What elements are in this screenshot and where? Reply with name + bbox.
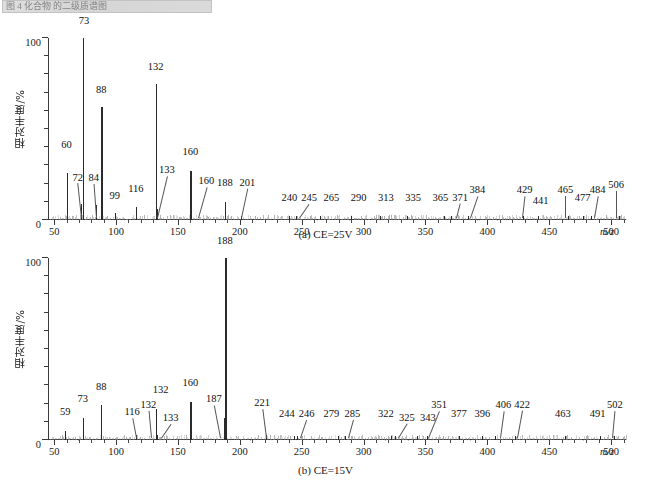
- x-tick: [240, 440, 241, 445]
- peak-label: 491: [590, 409, 606, 420]
- spectrum-peak: [482, 436, 483, 440]
- x-tick-label: 400: [480, 447, 496, 458]
- x-tick-label: 350: [418, 447, 434, 458]
- x-tick: [364, 440, 365, 445]
- peak-label: 465: [557, 185, 573, 196]
- x-tick: [91, 220, 92, 223]
- y-tick: [44, 128, 48, 129]
- peak-label: 371: [452, 193, 468, 204]
- peak-label: 160: [182, 378, 198, 389]
- x-tick: [401, 440, 402, 443]
- spectrum-peak: [417, 436, 418, 440]
- peak-label: 335: [405, 193, 421, 204]
- x-tick: [487, 220, 488, 225]
- peak-leader-line: [517, 411, 523, 438]
- caption-a: (a) CE=25V: [0, 228, 651, 240]
- peak-label: 84: [89, 173, 100, 184]
- spectrum-peak: [294, 436, 295, 440]
- y-tick: [44, 92, 48, 93]
- spectrum-peak: [568, 216, 569, 220]
- spectrum-peak: [345, 436, 346, 440]
- spectrum-peak: [600, 436, 601, 440]
- x-tick: [438, 220, 439, 223]
- y-tick: [44, 73, 48, 74]
- peak-label: 88: [96, 85, 107, 96]
- peak-label: 240: [281, 193, 297, 204]
- peak-leader-line: [616, 191, 617, 218]
- x-tick: [116, 440, 117, 445]
- x-tick: [401, 220, 402, 223]
- x-tick: [450, 220, 451, 223]
- peak-label: 322: [378, 409, 394, 420]
- peak-label: 477: [575, 193, 591, 204]
- x-tick: [376, 440, 377, 443]
- baseline-noise: [626, 435, 627, 440]
- spectrum-plot-a: 相对丰度/% 010050100150200250300350400450500…: [48, 38, 626, 220]
- peak-label: 396: [475, 409, 491, 420]
- spectrum-peak: [515, 436, 516, 440]
- y-tick: [44, 164, 48, 165]
- x-tick: [463, 220, 464, 223]
- spectrum-peak: [380, 216, 381, 220]
- peak-label: 221: [254, 398, 270, 409]
- y-tick: [44, 146, 48, 147]
- peak-label: 406: [496, 400, 512, 411]
- spectrum-peak: [225, 202, 226, 220]
- x-tick: [128, 440, 129, 443]
- spectrum-peak: [459, 436, 460, 440]
- peak-label: 265: [324, 193, 340, 204]
- y-axis-title-b: 相对丰度/%: [12, 310, 27, 368]
- spectrum-peak: [289, 216, 290, 220]
- spectrum-peak: [565, 436, 566, 440]
- x-tick: [487, 440, 488, 445]
- spectrum-peak: [583, 216, 584, 220]
- y-tick: [42, 219, 48, 220]
- spectrum-peak: [614, 436, 615, 440]
- y-tick: [44, 384, 48, 385]
- peak-label: 502: [607, 400, 623, 411]
- x-tick: [128, 220, 129, 223]
- x-tick: [351, 220, 352, 223]
- spectrum-peak: [190, 211, 191, 220]
- peak-label: 59: [60, 407, 71, 418]
- x-tick: [388, 440, 389, 443]
- peak-leader-line: [241, 189, 248, 218]
- x-tick: [339, 220, 340, 223]
- peak-label: 441: [533, 196, 549, 207]
- peak-label: 245: [301, 193, 317, 204]
- peak-label: 99: [110, 191, 121, 202]
- x-tick: [166, 220, 167, 223]
- x-tick: [586, 220, 587, 223]
- x-tick: [252, 440, 253, 443]
- x-tick: [166, 440, 167, 443]
- x-tick: [413, 440, 414, 443]
- spectrum-peak: [67, 173, 69, 220]
- x-tick: [178, 440, 179, 445]
- peak-label: 133: [159, 165, 175, 176]
- spectrum-peak: [296, 216, 297, 220]
- peak-label: 187: [206, 394, 222, 405]
- x-tick: [611, 220, 612, 225]
- x-tick: [326, 220, 327, 223]
- x-tick: [525, 220, 526, 223]
- y-tick: [44, 183, 48, 184]
- peak-leader-line: [148, 411, 151, 438]
- spectrum-peak: [523, 216, 524, 220]
- x-tick: [141, 220, 142, 223]
- peak-label: 72: [72, 173, 83, 184]
- spectrum-peak: [351, 216, 352, 220]
- x-tick: [599, 220, 600, 223]
- x-tick: [475, 220, 476, 223]
- y-tick: [44, 330, 48, 331]
- peak-label: 285: [345, 409, 361, 420]
- x-tick: [215, 440, 216, 443]
- peak-label: 160: [182, 147, 198, 158]
- peak-label: 484: [590, 185, 606, 196]
- spectrum-peak: [619, 216, 620, 220]
- spectrum-peak: [190, 402, 192, 440]
- peak-leader-line: [612, 411, 615, 438]
- peak-leader-line: [500, 411, 505, 438]
- spectrum-peak: [407, 216, 408, 220]
- peak-label: 201: [239, 178, 255, 189]
- page-header-band: 图 4 化合物 的二级质谱图: [2, 0, 212, 13]
